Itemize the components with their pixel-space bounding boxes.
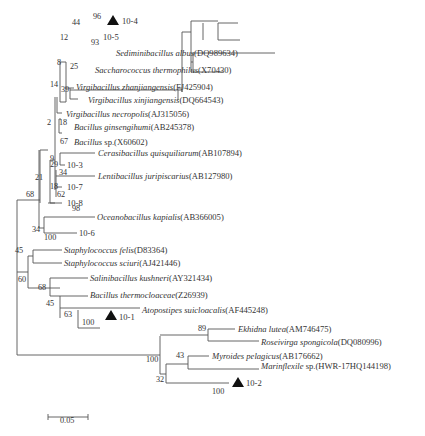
svg-text:44: 44 xyxy=(72,18,80,27)
svg-text:14: 14 xyxy=(50,80,58,89)
svg-text:Roseivirga spongicola(DQ080996: Roseivirga spongicola(DQ080996) xyxy=(260,337,382,347)
svg-text:21: 21 xyxy=(35,173,43,182)
svg-text:96: 96 xyxy=(93,12,101,21)
svg-text:43: 43 xyxy=(176,351,184,360)
svg-text:60: 60 xyxy=(18,275,26,284)
svg-text:34: 34 xyxy=(32,225,40,234)
svg-text:62: 62 xyxy=(57,190,65,199)
svg-text:Virgibacillus xinjiangensis(DQ: Virgibacillus xinjiangensis(DQ664543) xyxy=(88,95,223,105)
svg-text:100: 100 xyxy=(146,355,158,364)
svg-text:Atopostipes suicloacalis(AF445: Atopostipes suicloacalis(AF445248) xyxy=(141,305,268,315)
svg-text:Cerasibacillus quisquiliarum(A: Cerasibacillus quisquiliarum(AB107894) xyxy=(98,148,242,158)
taxa-labels: 10-4 10-5 Sediminibacillus albus(DQ98963… xyxy=(64,16,391,388)
svg-text:Bacillus ginsengihumi(AB245378: Bacillus ginsengihumi(AB245378) xyxy=(74,122,194,132)
svg-text:29: 29 xyxy=(50,160,58,169)
svg-text:Sediminibacillus albus(DQ98963: Sediminibacillus albus(DQ989634) xyxy=(116,48,238,58)
svg-text:67: 67 xyxy=(60,137,68,146)
svg-text:8: 8 xyxy=(57,58,61,67)
triangle-icon xyxy=(107,15,119,25)
svg-text:63: 63 xyxy=(64,310,72,319)
svg-text:10-3: 10-3 xyxy=(67,160,83,170)
svg-text:100: 100 xyxy=(44,233,56,242)
svg-text:10-2: 10-2 xyxy=(246,378,262,388)
svg-text:Bacillus sp.(X60602): Bacillus sp.(X60602) xyxy=(74,137,148,147)
svg-text:12: 12 xyxy=(60,33,68,42)
svg-text:10-6: 10-6 xyxy=(79,228,95,238)
svg-text:32: 32 xyxy=(156,375,164,384)
svg-text:2: 2 xyxy=(47,118,51,127)
svg-text:34: 34 xyxy=(59,168,67,177)
svg-text:Virgibacillus necropolis(AJ315: Virgibacillus necropolis(AJ315056) xyxy=(66,109,189,119)
phylogenetic-tree: 10-4 10-5 Sediminibacillus albus(DQ98963… xyxy=(0,0,425,436)
svg-text:Staphylococcus felis(D83364): Staphylococcus felis(D83364) xyxy=(64,245,167,255)
svg-text:100: 100 xyxy=(82,318,94,327)
svg-text:98: 98 xyxy=(72,204,80,213)
svg-text:Virgibacillus zhanjiangensis(F: Virgibacillus zhanjiangensis(FJ425904) xyxy=(76,82,213,92)
triangle-icon xyxy=(105,310,117,320)
svg-text:89: 89 xyxy=(198,324,206,333)
svg-text:68: 68 xyxy=(26,190,34,199)
svg-text:Staphylococcus sciuri(AJ421446: Staphylococcus sciuri(AJ421446) xyxy=(64,258,180,268)
svg-text:10-1: 10-1 xyxy=(119,312,135,322)
svg-text:39: 39 xyxy=(61,85,69,94)
scale-bar-label: 0.05 xyxy=(60,416,74,425)
svg-text:45: 45 xyxy=(15,246,23,255)
svg-text:68: 68 xyxy=(38,283,46,292)
taxon-label: 10-4 xyxy=(122,16,138,26)
svg-text:Myroides pelagicus(AB176662): Myroides pelagicus(AB176662) xyxy=(211,351,323,361)
svg-text:Ekhidna lutea(AM746475): Ekhidna lutea(AM746475) xyxy=(237,324,331,334)
svg-text:Saccharococcus thermophilus(X7: Saccharococcus thermophilus(X70430) xyxy=(95,65,232,75)
svg-text:93: 93 xyxy=(91,38,99,47)
svg-text:25: 25 xyxy=(70,62,78,71)
svg-text:18: 18 xyxy=(59,118,67,127)
svg-text:Marinflexile sp.(HWR-17HQ14419: Marinflexile sp.(HWR-17HQ144198) xyxy=(260,361,391,371)
triangle-icon xyxy=(232,377,244,387)
taxon-label: 10-5 xyxy=(103,32,119,42)
svg-text:Salinibacillus kushneri(AY3214: Salinibacillus kushneri(AY321434) xyxy=(90,273,212,283)
svg-text:45: 45 xyxy=(46,299,54,308)
svg-text:Oceanobacillus kapialis(AB3660: Oceanobacillus kapialis(AB366005) xyxy=(97,212,224,222)
svg-text:10-7: 10-7 xyxy=(67,182,83,192)
svg-text:Bacillus thermocloaceae(Z26939: Bacillus thermocloaceae(Z26939) xyxy=(90,290,208,300)
svg-text:100: 100 xyxy=(212,387,224,396)
svg-text:Lentibacillus juripiscarius(AB: Lentibacillus juripiscarius(AB127980) xyxy=(97,171,233,181)
